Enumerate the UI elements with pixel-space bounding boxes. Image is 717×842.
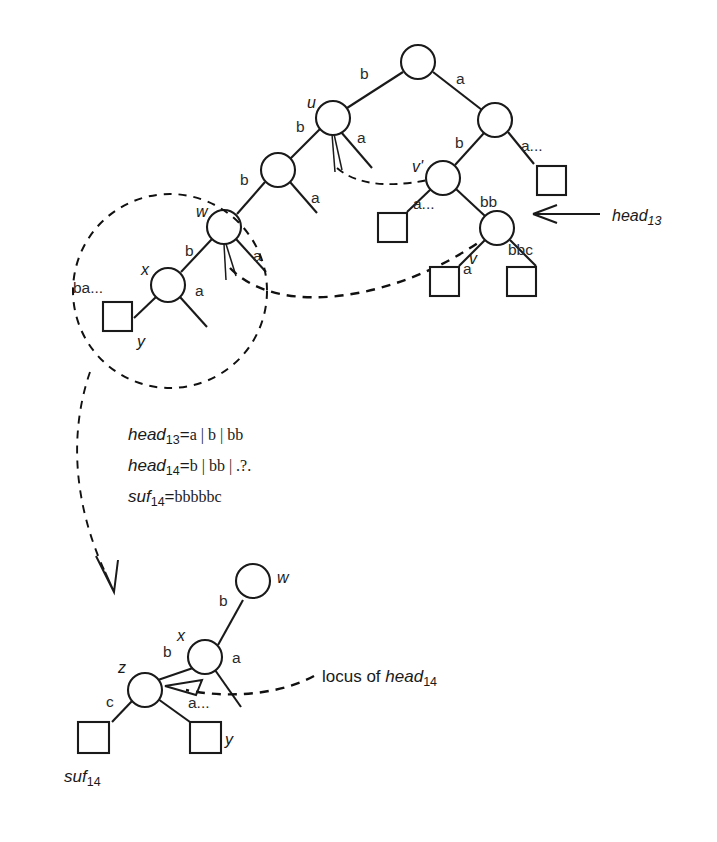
edge-label-lower-x-right: a	[232, 649, 241, 666]
node-label-lower-w: w	[277, 569, 290, 586]
lower-tree-labels: w x z y b b a c a... suf14	[64, 569, 290, 789]
edge-label-lower-z-left: c	[106, 693, 114, 710]
locus-arrow-head	[165, 680, 202, 695]
node-label-x: x	[140, 261, 150, 278]
lower-tree-nodes	[78, 564, 270, 753]
edge-root-to-u	[347, 72, 403, 108]
node-w	[207, 210, 241, 244]
node-label-v-prime: v'	[412, 158, 424, 175]
locus-label-prefix: locus of	[322, 667, 385, 686]
node-label-w: w	[196, 203, 209, 220]
node-lower-x	[188, 640, 222, 674]
formula-suf14-sub: 14	[151, 495, 165, 509]
leaf-box-a-vprime	[378, 213, 407, 242]
edge-label-lower-z-right: a...	[188, 694, 210, 711]
leaf-caption-suf14-name: suf	[64, 767, 89, 786]
edge-label-x-left: ba...	[73, 279, 103, 296]
edge-label-lower-x-left: b	[163, 643, 172, 660]
formula-suf14-eq: =	[165, 487, 175, 506]
node-right-child	[478, 103, 512, 137]
locus-label: locus of head14	[322, 667, 437, 689]
formula-head14-value: b | bb | .?.	[190, 457, 252, 475]
node-v-prime	[426, 161, 460, 195]
edge-label-mid-right: a	[311, 189, 320, 206]
formula-suf14-value: bbbbbc	[175, 488, 222, 505]
node-root	[401, 45, 435, 79]
node-mid	[261, 153, 295, 187]
head13-arrow-label: head13	[612, 207, 662, 228]
edge-label-rightchild-left: b	[455, 134, 464, 151]
edge-lower-z-to-suf14	[112, 700, 133, 722]
upper-tree-nodes	[103, 45, 566, 331]
leaf-caption-suf14-sub: 14	[87, 775, 101, 789]
edge-label-x-right: a	[195, 282, 204, 299]
leaf-box-a-right	[537, 166, 566, 195]
zoom-arrow	[77, 372, 118, 592]
node-label-lower-x: x	[176, 627, 186, 644]
lower-tree-edges	[112, 600, 243, 722]
edge-lower-x-stub-a	[215, 670, 241, 707]
leaf-box-y-upper	[103, 302, 132, 331]
node-label-v: v	[469, 250, 478, 267]
edge-u-to-mid	[290, 129, 320, 159]
edge-label-mid-left: b	[240, 171, 249, 188]
head13-annotation: head13	[533, 205, 662, 228]
node-lower-w	[236, 564, 270, 598]
edge-lower-x-to-z	[158, 668, 193, 680]
edge-label-root-right: a	[456, 70, 465, 87]
formula-block: head13=a | b | bb head14=b | bb | .?. su…	[128, 425, 251, 509]
locus-label-sub: 14	[423, 675, 437, 689]
edge-u-stub-2	[334, 134, 342, 170]
upper-tree-node-labels: u w v' v x y	[136, 94, 478, 350]
node-x	[151, 268, 185, 302]
edge-label-vprime-left: a...	[413, 195, 435, 212]
head13-arrow-label-sub: 13	[648, 214, 662, 228]
formula-head14-name: head	[128, 456, 166, 475]
zoom-arrow-head	[96, 556, 118, 592]
node-label-y: y	[136, 333, 146, 350]
edge-label-root-left: b	[360, 65, 369, 82]
formula-head13-value: a | b | bb	[190, 426, 244, 444]
leaf-caption-suf14: suf14	[64, 767, 101, 789]
node-lower-z	[128, 673, 162, 707]
node-label-u: u	[307, 94, 316, 111]
edge-w-stub-1	[224, 244, 226, 280]
formula-head14-sub: 14	[166, 464, 180, 478]
edge-label-v-right: bbc	[508, 241, 533, 258]
locus-label-name: head	[385, 667, 423, 686]
edge-label-rightchild-right: a...	[521, 137, 543, 154]
edge-label-u-right: a	[357, 129, 366, 146]
node-label-lower-y: y	[224, 731, 234, 748]
formula-suf14-name: suf	[128, 487, 153, 506]
edge-label-w-left: b	[185, 242, 194, 259]
suffix-tree-figure: b a b a b a b a ba... a b a... a... bb a…	[0, 0, 717, 842]
formula-head14: head14=b | bb | .?.	[128, 456, 251, 478]
edge-lower-z-to-y	[158, 699, 190, 722]
leaf-box-bbc-v	[507, 267, 536, 296]
formula-head13-eq: =	[180, 425, 190, 444]
head13-arrow-label-name: head	[612, 207, 649, 224]
leaf-box-a-v	[430, 267, 459, 296]
edge-x-to-y	[134, 297, 156, 318]
zoom-arrow-line	[77, 372, 105, 572]
node-u	[316, 101, 350, 135]
leaf-box-y-lower	[190, 722, 221, 753]
formula-head14-eq: =	[180, 456, 190, 475]
edge-label-vprime-right: bb	[480, 193, 497, 210]
edge-label-u-left: b	[296, 118, 305, 135]
formula-head13-name: head	[128, 425, 166, 444]
edge-x-stub-a	[180, 297, 207, 327]
node-v	[480, 211, 514, 245]
node-label-lower-z: z	[117, 659, 126, 676]
locus-arrow-line	[186, 676, 314, 694]
formula-suf14: suf14=bbbbbc	[128, 487, 222, 509]
leaf-box-suf14	[78, 722, 109, 753]
formula-head13-sub: 13	[166, 433, 180, 447]
edge-label-lower-x-to-w: b	[219, 592, 228, 609]
formula-head13: head13=a | b | bb	[128, 425, 243, 447]
